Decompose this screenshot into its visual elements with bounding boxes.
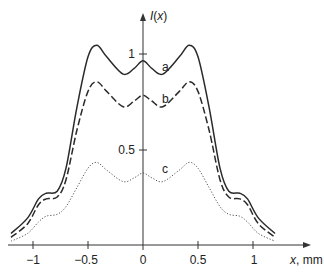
- x-tick-label: 0: [140, 253, 147, 267]
- x-tick-label: −0.5: [74, 253, 98, 267]
- x-tick-label: −1: [26, 253, 40, 267]
- curve-label-b: b: [162, 92, 169, 106]
- x-tick-label: 1: [251, 253, 258, 267]
- y-axis-title: I(x): [150, 9, 167, 23]
- x-axis: −1 −0.5 0 0.5 1 x, mm: [8, 241, 323, 267]
- y-axis: 1 0.5 I(x): [118, 9, 167, 250]
- y-axis-arrow-icon: [140, 13, 146, 21]
- x-tick-label: 0.5: [190, 253, 207, 267]
- x-axis-title: x, mm: [289, 253, 323, 267]
- curve-label-c: c: [162, 162, 168, 176]
- y-tick-label: 1: [128, 47, 135, 61]
- x-axis-arrow-icon: [303, 242, 311, 248]
- y-tick-label: 0.5: [118, 143, 135, 157]
- intensity-chart: −1 −0.5 0 0.5 1 x, mm 1 0.5 I(x) a b c: [0, 0, 324, 274]
- curve-label-a: a: [162, 60, 169, 74]
